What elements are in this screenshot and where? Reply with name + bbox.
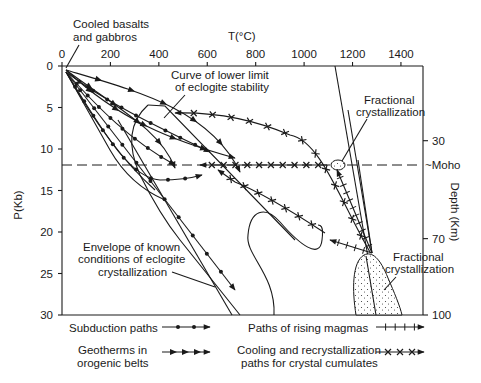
envelope-line: [118, 120, 232, 315]
path-marker-x: [308, 220, 316, 228]
path-marker-dot: [92, 106, 96, 110]
path-marker-dot: [183, 176, 187, 180]
annotation-line: crystallization: [98, 266, 167, 278]
x-axis-title: T(°C): [228, 30, 256, 42]
path-marker-x: [264, 123, 272, 131]
path-marker-dot: [101, 128, 105, 132]
path-marker-dot: [97, 105, 101, 109]
y-tick-label: 0: [47, 60, 53, 72]
path-marker-dot: [192, 325, 196, 329]
moho-magma-chamber: [331, 160, 345, 170]
y-tick-label: 30: [40, 309, 53, 321]
path-marker-arrowhead: [190, 116, 199, 125]
x-tick-label: 800: [246, 48, 265, 60]
annotation-eclogite-curve: Curve of lower limit of eclogite stabili…: [164, 69, 270, 118]
path-marker-arrowhead: [169, 134, 178, 142]
depth-tick-label: 30: [432, 135, 445, 147]
path-marker-dot: [191, 234, 195, 238]
annotation-cooled-basalts: Cooled basalts and gabbros: [66, 18, 149, 68]
cooling-path: [218, 170, 325, 233]
path-marker-x: [295, 212, 303, 220]
x-tick-label: 1400: [388, 48, 414, 60]
path-marker-dot: [176, 325, 180, 329]
depth-axis-title: Depth (Km): [449, 183, 461, 242]
path-marker-dot: [120, 127, 124, 131]
path-marker-dot: [178, 136, 182, 140]
path-marker-x: [281, 129, 289, 137]
subduction-path: [66, 72, 175, 165]
path-marker-arrowhead: [194, 349, 201, 355]
legend-label-cooling: Cooling and recrystallization: [237, 344, 381, 356]
path-marker-dot: [219, 270, 223, 274]
x-tick-label: 200: [101, 48, 120, 60]
path-marker-dot: [133, 137, 137, 141]
annotation-line: of eclogite stability: [175, 81, 269, 93]
path-marker-dot: [120, 143, 124, 147]
x-tick-label: 1000: [291, 48, 317, 60]
y-axis-title: P(Kb): [12, 190, 24, 220]
path-marker-dot: [134, 161, 138, 165]
path-marker-dot: [205, 252, 209, 256]
cooling-path: [175, 113, 370, 252]
path-marker-x: [322, 165, 330, 173]
rising-magma-path: [337, 170, 372, 253]
annotation-line: Curve of lower limit: [171, 69, 270, 81]
leader-line: [164, 95, 185, 118]
path-marker-x: [340, 198, 348, 206]
cooling-paths: [175, 110, 370, 252]
annotation-line: and gabbros: [73, 31, 137, 43]
path-marker-dot: [166, 178, 170, 182]
path-marker-dot: [159, 155, 163, 159]
path-marker-dot: [82, 99, 86, 103]
path-marker-dot: [86, 94, 90, 98]
path-marker-x: [331, 181, 339, 189]
path-marker-arrowhead: [182, 349, 189, 355]
x-tick-label: 0: [59, 48, 65, 60]
path-marker-dot: [134, 168, 138, 172]
annotation-line: Fractional: [393, 251, 444, 263]
path-marker-arrowhead: [127, 86, 136, 94]
path-marker-dot: [146, 146, 150, 150]
legend-symbol-subduction: [162, 325, 210, 329]
x-tick-label: 600: [198, 48, 217, 60]
path-marker-x: [268, 196, 276, 204]
path-marker-dot: [163, 128, 167, 132]
y-tick-label: 10: [40, 143, 53, 155]
path-marker-dot: [149, 176, 153, 180]
depth-tick-label: 100: [432, 309, 451, 321]
depth-tick-label: 70: [432, 233, 445, 245]
annotation-line: crystallization: [356, 106, 425, 118]
y-tick-label: 25: [40, 268, 53, 280]
y-tick-label: 15: [40, 185, 53, 197]
legend-label-cooling: paths for crystal cumulates: [241, 357, 378, 369]
path-marker-x: [254, 189, 262, 197]
annotation-line: Envelope of known: [83, 241, 180, 253]
annotation-line: Cooled basalts: [73, 18, 149, 30]
y-ticks: 051015202530: [40, 60, 62, 321]
path-marker-dot: [111, 142, 115, 146]
y-tick-label: 20: [40, 226, 53, 238]
x-tick-label: 1200: [340, 48, 366, 60]
path-marker-dot: [122, 156, 126, 160]
path-marker-x: [240, 182, 248, 190]
annotation-line: crystallization: [385, 263, 454, 275]
path-marker-dot: [108, 116, 112, 120]
y-tick-label: 5: [47, 102, 53, 114]
legend-symbol-rising-magmas: [376, 324, 424, 331]
path-marker-dot: [91, 114, 95, 118]
annotation-fractional-lower: Fractional crystallization: [384, 251, 454, 290]
annotation-envelope: Envelope of known conditions of eclogite…: [78, 241, 215, 287]
annotation-line: Fractional: [364, 94, 415, 106]
legend-label-geotherms: Geotherms in: [78, 344, 147, 356]
leader-line: [66, 45, 79, 68]
path-marker-arrowhead: [170, 349, 177, 355]
moho-label: ~Moho: [425, 159, 460, 171]
legend-symbol-cooling: [376, 349, 424, 355]
pt-diagram: 0200400600800100012001400 051015202530 3…: [0, 0, 481, 383]
path-marker-x: [281, 204, 289, 212]
path-marker-dot: [149, 121, 153, 125]
eclogite-stability-curve: [132, 105, 240, 315]
path-marker-dot: [177, 215, 181, 219]
annotation-line: conditions of eclogite: [78, 253, 185, 265]
path-marker-x: [246, 118, 253, 125]
